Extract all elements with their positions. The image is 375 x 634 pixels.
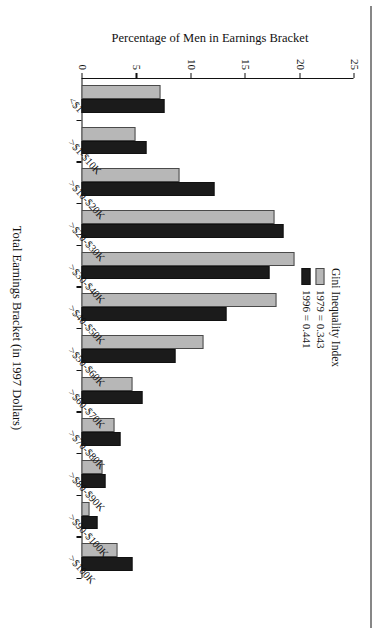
x-tick — [76, 328, 81, 329]
y-tick-label: 15 — [239, 48, 250, 70]
bar-1996 — [81, 224, 283, 238]
bar-1996 — [81, 182, 214, 196]
x-tick — [76, 286, 81, 287]
x-tick — [76, 245, 81, 246]
bar-1979 — [81, 210, 274, 224]
bar-1996 — [81, 307, 226, 321]
y-tick — [299, 73, 300, 78]
bar-1996 — [81, 391, 142, 405]
y-axis-title: Percentage of Men in Earnings Bracket — [100, 31, 320, 46]
y-tick — [135, 73, 136, 78]
x-tick — [76, 120, 81, 121]
gray-swatch-icon — [316, 268, 325, 285]
x-tick — [76, 536, 81, 537]
bar-1996 — [81, 349, 175, 363]
y-tick — [353, 73, 354, 78]
legend-item-1979: 1979 = 0.343 — [314, 268, 326, 367]
legend-title: Gini Inequality Index — [329, 268, 341, 367]
y-tick-label: 5 — [130, 48, 141, 70]
legend-item-1996: 1996 = 0.441 — [300, 268, 312, 367]
bar-1996 — [81, 141, 146, 155]
x-axis-title: Total Earnings Bracket (in 1997 Dollars) — [8, 78, 23, 578]
x-tick — [76, 370, 81, 371]
x-tick — [76, 161, 81, 162]
x-tick — [76, 411, 81, 412]
y-tick-label: 25 — [348, 48, 359, 70]
chart-frame: 0510152025 <$1>$1-$10K>$10-$20K>$20-$30K… — [0, 0, 375, 634]
y-axis-line — [81, 78, 353, 79]
bar-1979 — [81, 502, 89, 516]
bar-1996 — [81, 99, 164, 113]
y-tick — [190, 73, 191, 78]
bar-1979 — [81, 127, 135, 141]
chart-figure: 0510152025 <$1>$1-$10K>$10-$20K>$20-$30K… — [0, 0, 375, 634]
x-tick — [76, 453, 81, 454]
bar-1979 — [81, 377, 132, 391]
legend-label-1996: 1996 = 0.441 — [300, 290, 312, 348]
y-tick-label: 0 — [76, 48, 87, 70]
bar-1996 — [81, 266, 269, 280]
y-tick — [81, 73, 82, 78]
y-tick-label: 20 — [294, 48, 305, 70]
bar-1979 — [81, 252, 294, 266]
chart-legend: Gini Inequality Index 1979 = 0.343 1996 … — [298, 268, 341, 367]
legend-label-1979: 1979 = 0.343 — [314, 290, 326, 348]
bar-1979 — [81, 293, 276, 307]
black-swatch-icon — [302, 268, 311, 285]
x-tick — [76, 578, 81, 579]
y-tick-label: 10 — [185, 48, 196, 70]
bar-1979 — [81, 85, 160, 99]
x-tick — [76, 495, 81, 496]
figure-top-rule — [370, 6, 371, 628]
rotated-chart-canvas: 0510152025 <$1>$1-$10K>$10-$20K>$20-$30K… — [0, 0, 375, 634]
x-tick — [76, 203, 81, 204]
y-tick — [244, 73, 245, 78]
